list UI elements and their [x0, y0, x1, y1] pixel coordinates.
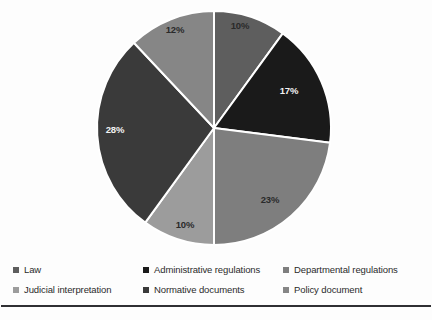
legend-item-label: Normative documents [154, 285, 245, 295]
legend-swatch-icon [283, 287, 289, 293]
legend-item-label: Policy document [294, 285, 362, 295]
pie-plot-area: 10%17%23%10%28%12% [0, 0, 432, 252]
legend-item-label: Law [24, 265, 41, 275]
pie-slice-label: 23% [261, 194, 280, 205]
pie-slice-label: 28% [106, 124, 125, 135]
legend-row: Judicial interpretationNormative documen… [0, 278, 432, 301]
pie-chart-svg: 10%17%23%10%28%12% [0, 0, 432, 252]
pie-chart-figure: 10%17%23%10%28%12% LawAdministrative reg… [0, 0, 432, 320]
legend-swatch-icon [143, 267, 149, 273]
legend-swatch-icon [13, 287, 19, 293]
pie-slice-group [97, 11, 331, 245]
legend-item[interactable]: Normative documents [143, 278, 245, 301]
legend-item[interactable]: Judicial interpretation [13, 278, 111, 301]
legend-item-label: Administrative regulations [154, 265, 260, 275]
legend-swatch-icon [283, 267, 289, 273]
pie-slice[interactable] [214, 128, 330, 245]
pie-slice-label: 10% [231, 20, 250, 31]
pie-slice-label: 12% [166, 24, 185, 35]
chart-legend: LawAdministrative regulationsDepartmenta… [0, 258, 432, 304]
legend-swatch-icon [13, 267, 19, 273]
legend-swatch-icon [143, 287, 149, 293]
pie-slice-label: 17% [280, 85, 299, 96]
bottom-divider [1, 305, 431, 307]
pie-slice-label: 10% [176, 219, 195, 230]
legend-item-label: Judicial interpretation [24, 285, 111, 295]
legend-item-label: Departmental regulations [294, 265, 398, 275]
legend-item[interactable]: Policy document [283, 278, 362, 301]
